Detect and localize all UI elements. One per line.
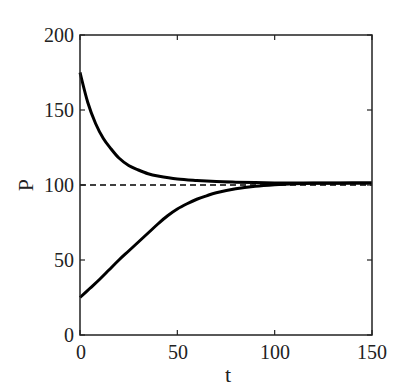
- plot-area: [80, 73, 372, 298]
- ytick-label-200: 200: [44, 24, 74, 46]
- ytick-label-0: 0: [64, 324, 74, 346]
- xtick-label-50: 50: [168, 341, 188, 363]
- chart: 0 50 100 150 200 0 50 100 150 t P: [0, 0, 398, 386]
- x-axis-label: t: [225, 362, 231, 386]
- series-line-1: [80, 183, 372, 297]
- ytick-label-100: 100: [44, 174, 74, 196]
- xtick-label-0: 0: [76, 341, 86, 363]
- ytick-label-150: 150: [44, 99, 74, 121]
- y-axis-label: P: [13, 179, 38, 191]
- ytick-label-50: 50: [54, 249, 74, 271]
- series-line-0: [80, 73, 372, 184]
- xtick-label-150: 150: [357, 341, 387, 363]
- xtick-label-100: 100: [260, 341, 290, 363]
